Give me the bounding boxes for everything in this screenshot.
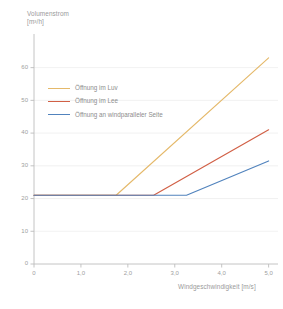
legend-item: Öffnung im Luv [48, 84, 163, 92]
x-axis-title: Windgeschwindigkeit [m/s] [178, 283, 256, 291]
legend-label: Öffnung an windparalleler Seite [75, 111, 163, 119]
plot-area [0, 0, 283, 309]
x-tick-label: 2,0 [118, 270, 138, 276]
legend: Öffnung im LuvÖffnung im LeeÖffnung an w… [48, 84, 163, 119]
legend-label: Öffnung im Luv [75, 84, 118, 92]
y-tick-label: 40 [8, 129, 28, 135]
legend-item: Öffnung an windparalleler Seite [48, 111, 163, 119]
chart-container: Volumenstrom[m³/h] Öffnung im LuvÖffnung… [0, 0, 283, 309]
legend-label: Öffnung im Lee [75, 97, 118, 105]
legend-item: Öffnung im Lee [48, 97, 163, 105]
series-line-1 [34, 130, 269, 195]
y-tick-label: 20 [8, 195, 28, 201]
y-tick-label: 10 [8, 228, 28, 234]
y-tick-label: 50 [8, 97, 28, 103]
legend-swatch-1 [48, 101, 70, 102]
series-line-0 [34, 58, 269, 195]
y-tick-label: 30 [8, 162, 28, 168]
y-tick-label: 0 [8, 260, 28, 266]
x-tick-label: 3,0 [165, 270, 185, 276]
x-tick-label: 1,0 [71, 270, 91, 276]
x-tick-label: 5,0 [259, 270, 279, 276]
y-tick-label: 60 [8, 64, 28, 70]
legend-swatch-0 [48, 88, 70, 89]
x-tick-label: 4,0 [212, 270, 232, 276]
legend-swatch-2 [48, 114, 70, 115]
x-tick-label: 0 [24, 270, 44, 276]
